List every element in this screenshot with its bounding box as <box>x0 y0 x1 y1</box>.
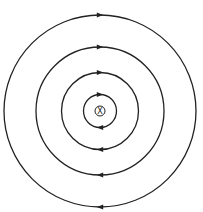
arrow-right-icon <box>97 70 103 75</box>
arrow-left-icon <box>97 204 103 209</box>
arrow-left-icon <box>97 125 103 130</box>
magnetic-field-diagram: X <box>0 0 203 212</box>
current-into-page-icon: X <box>97 107 103 116</box>
arrow-right-icon <box>97 44 103 49</box>
arrow-right-icon <box>97 92 103 97</box>
arrow-left-icon <box>97 172 103 177</box>
wire: X <box>95 106 105 116</box>
arrow-right-icon <box>97 12 103 17</box>
arrow-left-icon <box>97 147 103 152</box>
